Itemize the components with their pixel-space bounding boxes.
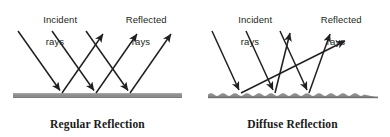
incident-label-line1: Incident bbox=[43, 14, 77, 25]
incident-rays-label: Incident rays bbox=[24, 3, 80, 69]
caption-regular-reflection: Regular Reflection bbox=[0, 118, 195, 130]
reflected-rays-label: Reflected rays bbox=[108, 3, 168, 69]
reflected-label-line2: rays bbox=[108, 36, 168, 47]
reflected-label-line2: rays bbox=[303, 36, 363, 47]
incident-rays-label: Incident rays bbox=[219, 3, 275, 69]
reflection-diagram: Incident rays Reflected rays Regular Ref… bbox=[0, 0, 390, 137]
panel-regular-reflection: Incident rays Reflected rays Regular Ref… bbox=[0, 0, 195, 137]
reflected-ray-2 bbox=[275, 33, 290, 93]
incident-label-line2: rays bbox=[219, 36, 275, 47]
reflected-rays-label: Reflected rays bbox=[303, 3, 363, 69]
incident-label-line1: Incident bbox=[238, 14, 272, 25]
incident-label-line2: rays bbox=[24, 36, 80, 47]
caption-diffuse-reflection: Diffuse Reflection bbox=[195, 118, 390, 130]
reflected-label-line1: Reflected bbox=[321, 14, 362, 25]
smooth-surface bbox=[13, 93, 182, 98]
rough-surface bbox=[208, 93, 378, 98]
panel-diffuse-reflection: Incident rays Reflected rays Diffuse Ref… bbox=[195, 0, 390, 137]
reflected-label-line1: Reflected bbox=[126, 14, 167, 25]
